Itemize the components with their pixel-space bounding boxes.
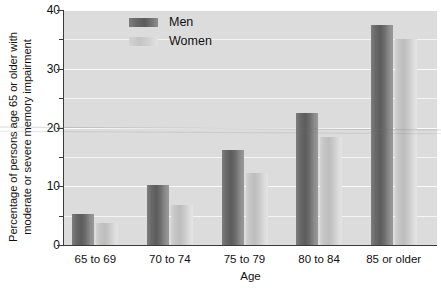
plot-area [64,10,437,245]
bar-women-80-to-84 [320,137,342,245]
bar-women-70-to-74 [171,205,193,245]
bar-men-70-to-74 [147,185,169,245]
y-axis-tick-major [57,128,64,129]
x-axis-line [63,245,437,246]
legend-item-men: Men [129,15,249,30]
y-axis-tick-major [57,245,64,246]
legend-item-women: Women [129,34,249,49]
legend-swatch-men-icon [129,18,158,27]
x-axis-tick-label: 80 to 84 [276,252,362,266]
y-axis-tick-minor [59,39,64,40]
bar-women-75-to-79 [246,173,268,245]
bar-men-85-or-older [371,25,393,245]
bar-men-65-to-69 [72,214,94,245]
gridline [64,10,437,11]
y-axis-tick-major [57,186,64,187]
bar-men-80-to-84 [296,113,318,245]
x-axis-tick-label: 75 to 79 [202,252,288,266]
y-axis-tick-major [57,10,64,11]
y-axis-tick-minor [59,216,64,217]
memory-impairment-bar-chart: Percentage of persons age 65 or older wi… [0,0,441,293]
bar-women-65-to-69 [96,223,118,245]
legend-label-women: Women [169,35,212,48]
y-axis-title-line-1: Percentage of persons age 65 or older wi… [6,32,20,242]
x-axis-tick-labels: 65 to 6970 to 7475 to 7980 to 8485 or ol… [64,252,437,268]
x-axis-tick-label: 85 or older [351,252,437,266]
x-axis-tick-label: 65 to 69 [52,252,138,266]
y-axis-tick-minor [59,157,64,158]
x-axis-title: Age [64,270,437,282]
bar-women-85-or-older [395,39,417,245]
y-axis-tick-labels: 010203040 [30,0,60,293]
x-axis-tick-label: 70 to 74 [127,252,213,266]
y-axis-tick-major [57,69,64,70]
bar-men-75-to-79 [222,150,244,245]
legend-swatch-women-icon [129,37,158,46]
y-axis-tick-minor [59,98,64,99]
chart-legend: Men Women [129,15,249,53]
legend-label-men: Men [169,16,193,29]
